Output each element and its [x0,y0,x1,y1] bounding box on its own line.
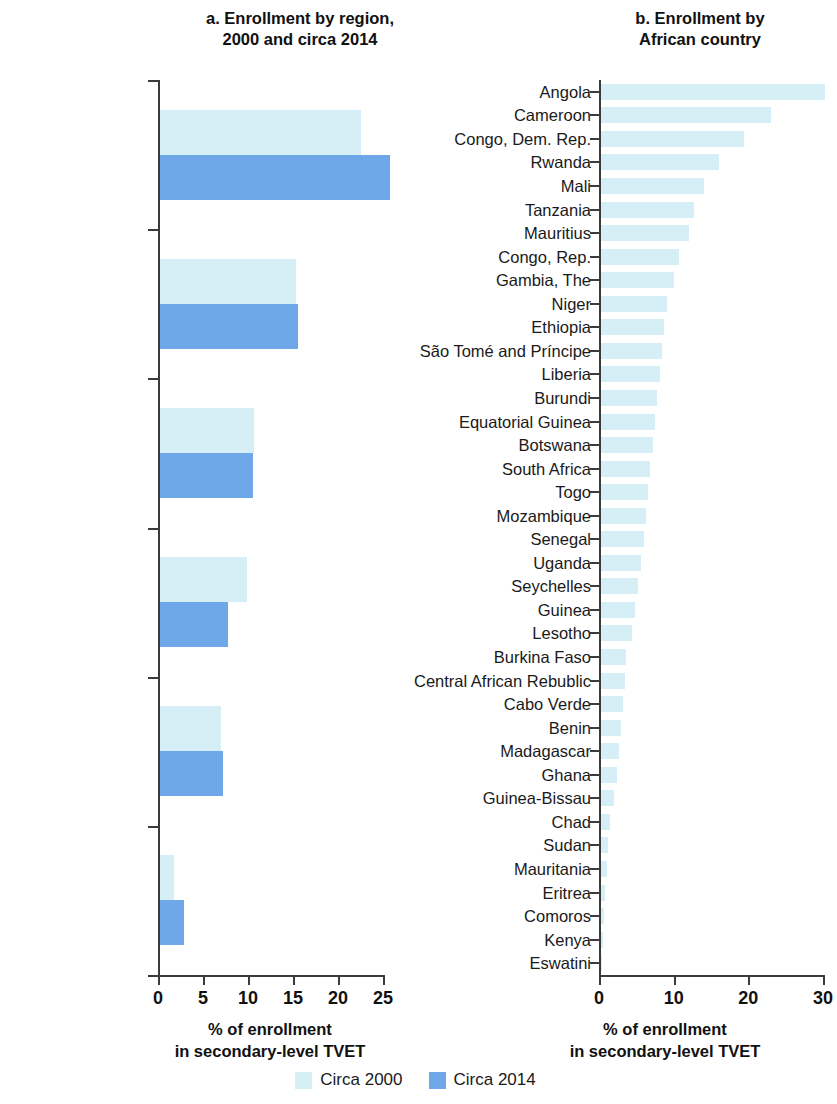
bar-circa-2014 [160,155,390,200]
country-label: Kenya [544,930,591,950]
country-label: Eritrea [542,883,591,903]
country-row: Mauritania [400,857,831,881]
panel-b-axis-title-line-1: % of enrollment [500,1018,830,1040]
y-axis-tick [590,468,600,470]
x-axis-tick [383,975,385,985]
country-row: Niger [400,292,831,316]
country-row: Benin [400,716,831,740]
y-axis-tick [590,91,600,93]
country-label: Burkina Faso [494,647,591,667]
x-axis-tick [248,975,250,985]
y-axis-tick [590,939,600,941]
x-axis-tick [823,975,825,985]
bar-circa-2000 [601,461,650,477]
bar-circa-2014 [160,453,253,498]
y-axis-tick [590,138,600,140]
chart-legend: Circa 2000Circa 2014 [0,1070,831,1090]
country-row: Mozambique [400,504,831,528]
country-label: Cameroon [514,105,591,125]
y-axis-tick [590,727,600,729]
country-label: Burundi [534,388,591,408]
country-label: Senegal [530,529,591,549]
country-row: Kenya [400,928,831,952]
country-row: Guinea [400,598,831,622]
y-axis-tick [590,397,600,399]
bar-circa-2000 [601,861,607,877]
country-row: Gambia, The [400,268,831,292]
y-axis-tick [590,868,600,870]
country-row: Eswatini [400,951,831,975]
legend-label: Circa 2014 [454,1070,536,1090]
country-row: Eritrea [400,881,831,905]
x-axis-tick-label: 5 [183,988,223,1009]
bar-circa-2000 [601,578,638,594]
country-label: Mauritius [524,223,591,243]
y-axis-tick [590,326,600,328]
bar-circa-2000 [601,720,621,736]
country-label: Lesotho [532,623,591,643]
y-axis-tick [590,844,600,846]
y-axis-tick [590,421,600,423]
country-label: Ghana [541,765,591,785]
y-axis-tick [148,826,159,828]
bar-circa-2000 [601,885,605,901]
country-row: Mauritius [400,221,831,245]
bar-circa-2000 [160,855,174,900]
country-label: Liberia [541,364,591,384]
bar-circa-2000 [601,767,617,783]
country-row: Congo, Dem. Rep. [400,127,831,151]
bar-circa-2000 [601,673,625,689]
country-label: Mali [561,176,591,196]
panel-b-title: b. Enrollment by African country [560,8,837,50]
y-axis-tick [590,656,600,658]
y-axis-tick [148,528,159,530]
country-label: Central African Rebublic [414,671,591,691]
panel-b-title-line-2: African country [560,29,837,50]
bar-circa-2000 [601,602,635,618]
y-axis-tick [590,680,600,682]
country-row: Comoros [400,904,831,928]
bar-circa-2000 [160,408,254,453]
country-label: Guinea-Bissau [483,788,591,808]
panel-b-x-axis-line [599,975,824,977]
country-row: Tanzania [400,198,831,222]
bar-circa-2000 [601,649,626,665]
legend-item: Circa 2000 [295,1070,402,1090]
legend-swatch-icon [429,1072,446,1089]
bar-circa-2000 [601,908,604,924]
legend-label: Circa 2000 [320,1070,402,1090]
panel-b-title-line-1: b. Enrollment by [560,8,837,29]
bar-circa-2000 [601,625,632,641]
bar-circa-2000 [601,225,689,241]
x-axis-tick [338,975,340,985]
bar-circa-2000 [601,955,602,971]
country-label: Chad [552,812,591,832]
bar-circa-2000 [601,107,771,123]
bar-circa-2000 [601,131,744,147]
x-axis-tick-label: 15 [273,988,313,1009]
country-row: Uganda [400,551,831,575]
country-label: Benin [549,718,591,738]
y-axis-tick [590,703,600,705]
country-row: Botswana [400,433,831,457]
x-axis-tick-label: 0 [579,988,619,1009]
bar-circa-2000 [601,437,653,453]
country-row: Cameroon [400,104,831,128]
country-label: Botswana [519,435,591,455]
country-label: Congo, Rep. [498,247,591,267]
country-row: Angola [400,80,831,104]
bar-circa-2014 [160,751,223,796]
bar-circa-2000 [601,202,694,218]
x-axis-tick-label: 20 [318,988,358,1009]
y-axis-tick [590,750,600,752]
bar-circa-2000 [601,84,825,100]
x-axis-tick [748,975,750,985]
country-label: Niger [552,294,591,314]
y-axis-tick [590,444,600,446]
country-row: Mali [400,174,831,198]
panel-a-axis-title-line-2: in secondary-level TVET [100,1040,440,1062]
country-label: Mauritania [514,859,591,879]
x-axis-tick-label: 0 [138,988,178,1009]
y-axis-tick [590,279,600,281]
country-label: Angola [540,82,591,102]
